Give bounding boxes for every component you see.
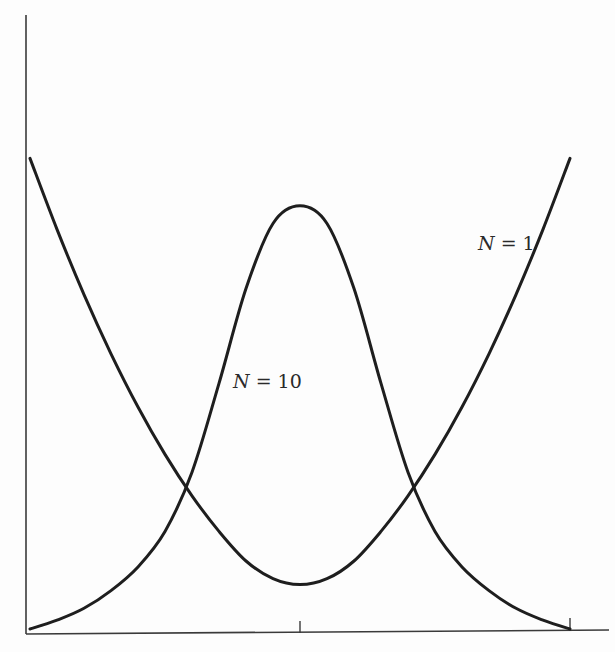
label-n1: N = 1 (478, 232, 535, 254)
label-n10-var: N (233, 370, 250, 392)
label-n1-var: N (478, 232, 495, 254)
curve-n10 (30, 206, 570, 629)
label-n10-rest: = 10 (250, 370, 302, 392)
label-n1-rest: = 1 (495, 232, 535, 254)
x-axis (26, 630, 609, 634)
label-n10: N = 10 (233, 370, 302, 392)
chart-canvas (0, 0, 615, 652)
